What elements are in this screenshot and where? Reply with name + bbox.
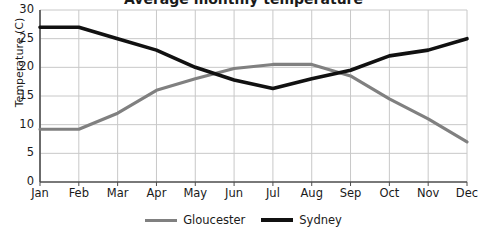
legend-label: Sydney xyxy=(299,213,342,227)
series-line-sydney xyxy=(40,27,467,88)
chart-legend: GloucesterSydney xyxy=(0,213,487,227)
x-tick-label-may: May xyxy=(183,186,207,200)
x-tick-label-sep: Sep xyxy=(340,186,362,200)
x-tick-label-jun: Jun xyxy=(225,186,243,200)
x-tick-label-apr: Apr xyxy=(147,186,167,200)
x-tick-label-dec: Dec xyxy=(456,186,478,200)
legend-swatch-gloucester xyxy=(145,219,177,222)
series-line-gloucester xyxy=(40,64,467,141)
x-tick-label-aug: Aug xyxy=(300,186,322,200)
x-tick-label-mar: Mar xyxy=(107,186,129,200)
x-tick-label-oct: Oct xyxy=(379,186,399,200)
legend-entry-sydney[interactable]: Sydney xyxy=(261,213,342,227)
legend-label: Gloucester xyxy=(183,213,245,227)
legend-swatch-sydney xyxy=(261,218,293,222)
x-tick-label-feb: Feb xyxy=(69,186,89,200)
temperature-line-chart: Average monthly temperature Temperature … xyxy=(0,0,487,242)
x-tick-label-jul: Jul xyxy=(266,186,280,200)
x-axis-tick-labels: JanFebMarAprMayJunJulAugSepOctNovDec xyxy=(0,186,487,206)
legend-entry-gloucester[interactable]: Gloucester xyxy=(145,213,245,227)
x-tick-label-nov: Nov xyxy=(417,186,439,200)
x-tick-label-jan: Jan xyxy=(31,186,49,200)
